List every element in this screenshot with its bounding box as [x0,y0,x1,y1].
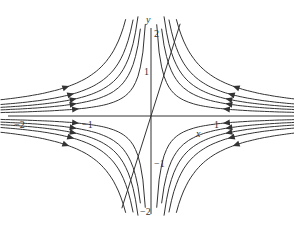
x-axis-label: x [195,128,201,139]
y-tick-neg2: −2 [140,206,151,217]
trajectory-arrow-icon [62,86,70,92]
x-tick-1: 1 [214,119,219,130]
trajectory [162,29,294,110]
trajectory-arrow-icon [72,106,79,112]
y-axis-label: y [145,14,151,25]
trajectory-arrow-icon [223,106,230,112]
y-tick-2: 2 [154,28,159,39]
trajectory [162,122,294,203]
trajectory-arrow-icon [72,120,79,126]
trajectory-arrow-icon [69,102,76,108]
trajectory-arrow-icon [233,141,241,147]
trajectory [169,128,294,213]
trajectory-arrow-icon [223,120,230,126]
trajectory [157,119,294,207]
trajectory [157,24,294,112]
y-tick-neg1: −1 [154,158,165,169]
trajectory-arrow-icon [62,141,70,147]
trajectory-arrow-icon [225,102,232,108]
trajectory [169,20,294,105]
trajectory-arrow-icon [233,86,241,92]
trajectory-arrow-icon [225,124,232,130]
y-tick-1: 1 [144,66,149,77]
phase-portrait: y x 2 1 −1 −2 −2 −1 1 [0,0,294,227]
x-tick-neg2: −2 [14,119,25,130]
trajectory-arrow-icon [69,124,76,130]
x-tick-neg1: −1 [82,119,93,130]
